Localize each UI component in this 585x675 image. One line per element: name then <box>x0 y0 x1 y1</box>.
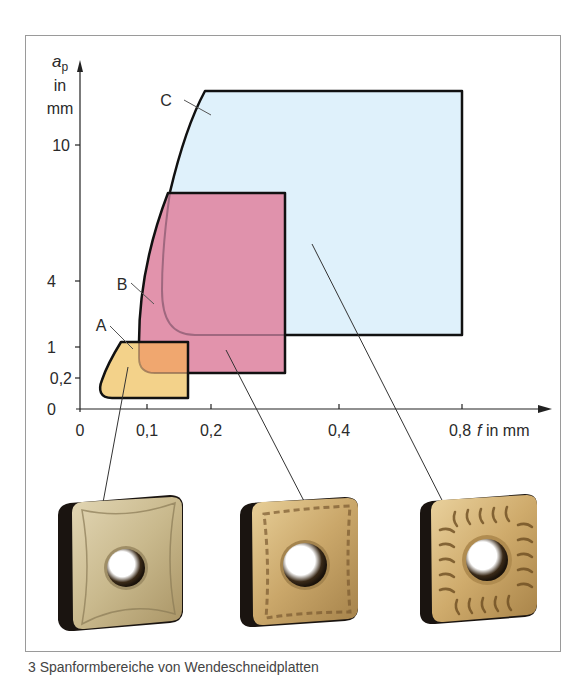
region-ab-overlap <box>139 342 188 373</box>
x-tick-label-0: 0 <box>76 422 85 439</box>
y-axis-title-unit-1: in <box>54 77 66 94</box>
x-tick-label-0-4: 0,4 <box>328 422 350 439</box>
x-tick-label-0-1: 0,1 <box>136 422 158 439</box>
y-tick-label-10: 10 <box>52 137 70 154</box>
x-axis-title: f in mm <box>477 422 529 439</box>
x-tick-label-0-2: 0,2 <box>200 422 222 439</box>
figure-caption: 3 Spanformbereiche von Wendeschneidplatt… <box>28 659 319 675</box>
y-tick-label-1: 1 <box>47 339 56 356</box>
y-axis-title-unit-2: mm <box>47 100 74 117</box>
insert-b-image <box>240 497 358 627</box>
insert-c-image <box>420 494 537 624</box>
region-label-a: A <box>96 317 107 334</box>
y-tick-label-4: 4 <box>47 273 56 290</box>
y-tick-label-0-2: 0,2 <box>50 370 72 387</box>
region-label-b: B <box>117 276 128 293</box>
insert-a-image <box>58 495 183 631</box>
x-tick-label-0-8: 0,8 <box>449 422 471 439</box>
y-tick-label-0: 0 <box>47 401 56 418</box>
region-label-c: C <box>160 92 172 109</box>
